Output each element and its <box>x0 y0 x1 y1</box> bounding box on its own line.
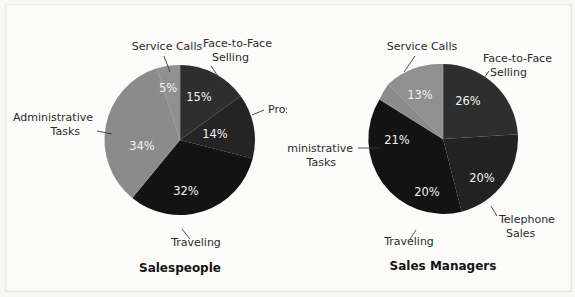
leader-prospecting <box>252 110 264 115</box>
figure-root: 15% 14% 32% 34% 5% Service Calls Face-to… <box>0 0 575 297</box>
label-service-calls: Service Calls <box>132 40 203 53</box>
label-face-to-face-line1: Face-to-Face <box>203 37 272 50</box>
pct-administrative-tasks: 34% <box>129 139 155 153</box>
pie-chart-sales-managers: 26% 20% 20% 21% 13% Service Calls Face-t… <box>287 0 574 297</box>
caption-salespeople: Salespeople <box>139 261 221 275</box>
label-face-to-face-line2: Selling <box>490 66 527 79</box>
pct-telephone-sales: 20% <box>469 171 495 185</box>
pct-service-calls: 13% <box>407 88 433 102</box>
leader-telephone-sales <box>491 206 497 216</box>
pct-face-to-face-selling: 15% <box>186 90 212 104</box>
label-face-to-face-line1: Face-to-Face <box>483 52 552 65</box>
pct-service-calls: 5% <box>159 81 177 95</box>
pie-chart-salespeople: 15% 14% 32% 34% 5% Service Calls Face-to… <box>0 0 287 297</box>
label-telephone-line1: Telephone <box>498 213 555 226</box>
label-service-calls: Service Calls <box>387 40 458 53</box>
label-telephone-sales-line2: Sales <box>506 227 536 240</box>
label-face-to-face-line2: Selling <box>212 51 249 64</box>
label-administrative-line1: Administrative <box>287 142 353 155</box>
label-prospecting: Prospecting <box>268 103 287 116</box>
label-administrative-line2: Tasks <box>306 156 337 169</box>
label-traveling: Traveling <box>383 235 434 248</box>
label-administrative-line1: Administrative <box>13 111 93 124</box>
label-traveling: Traveling <box>170 236 221 249</box>
pct-prospecting: 14% <box>202 127 228 141</box>
caption-sales-managers: Sales Managers <box>390 259 497 273</box>
label-administrative-line2: Tasks <box>50 125 81 138</box>
pct-face-to-face-selling: 26% <box>455 94 481 108</box>
pct-traveling: 32% <box>173 184 199 198</box>
pct-administrative-tasks: 21% <box>384 133 410 147</box>
pct-traveling: 20% <box>414 185 440 199</box>
